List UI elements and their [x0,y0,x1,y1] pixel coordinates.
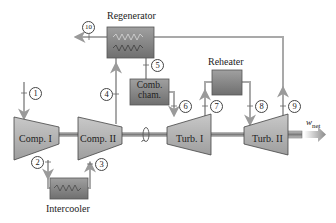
reheater-box [212,70,242,95]
combustion-chamber-label-line2: cham. [138,90,161,100]
state-8: 8 [255,100,268,113]
regenerator-label: Regenerator [107,11,156,21]
turbine-2-label: Turb. II [252,134,283,144]
flow-line-8 [242,82,250,124]
state-6: 6 [179,100,192,113]
state-4: 4 [100,88,113,101]
state-7: 7 [210,100,223,113]
intercooler-box [50,178,88,199]
cycle-diagram [0,0,336,223]
flow-line-6 [169,92,174,115]
net-work-label: wnet [306,117,321,130]
compressor-1-label: Comp. I [19,134,52,144]
state-10: 10 [82,21,95,34]
combustion-chamber-label-line1: Comb. [137,80,163,90]
state-1: 1 [29,87,42,100]
state-3: 3 [95,158,108,171]
reheater-label: Reheater [208,57,244,67]
combustion-chamber-label: Comb. cham. [130,81,169,101]
turbine-1-label: Turb. I [176,134,203,144]
regenerator-box [107,27,154,58]
state-9: 9 [288,100,301,113]
state-2: 2 [31,156,44,169]
intercooler-label: Intercooler [46,204,90,214]
state-5: 5 [151,59,164,72]
net-work-subscript: net [312,122,321,130]
compressor-2-label: Comp. II [80,134,116,144]
